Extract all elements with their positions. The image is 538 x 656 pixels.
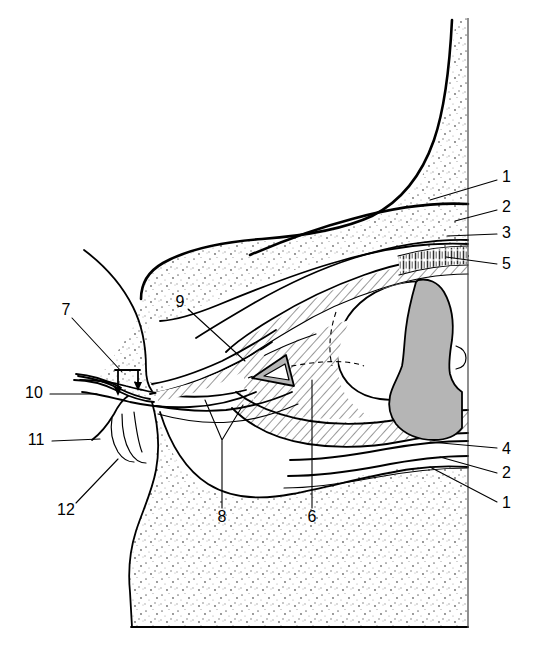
label-11-left: 11 [28,431,45,448]
label-6-mid: 6 [308,508,317,525]
label-10-left: 10 [25,384,43,401]
label-1-top: 1 [502,168,511,185]
label-9-mid: 9 [176,293,185,310]
label-12-left: 12 [57,501,75,518]
label-2-top: 2 [502,198,511,215]
figure-canvas: 12354217101112986 [0,0,538,656]
label-5-top: 5 [502,255,511,272]
label-4-bottom: 4 [502,440,511,457]
label-7-left: 7 [62,301,71,318]
label-8-mid: 8 [218,508,227,525]
label-2-bottom: 2 [502,464,511,481]
label-3-top: 3 [502,224,511,241]
label-1-bottom: 1 [502,494,511,511]
anatomical-figure: 12354217101112986 [0,0,538,656]
